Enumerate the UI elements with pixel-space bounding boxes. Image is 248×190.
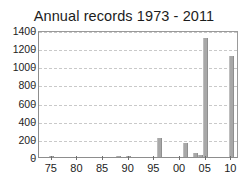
y-tick-label: 400 (2, 117, 36, 127)
x-tick-mark (179, 156, 180, 160)
x-tick-mark (128, 156, 129, 160)
x-tick-label: 90 (114, 162, 142, 174)
x-tick-mark (76, 156, 77, 160)
bar (229, 56, 234, 157)
y-tick-mark (32, 85, 36, 86)
x-tick-label: 85 (88, 162, 116, 174)
y-tick-mark (32, 31, 36, 32)
bar (157, 138, 162, 157)
y-tick-mark (32, 49, 36, 50)
bar-series (39, 32, 237, 157)
chart-title: Annual records 1973 - 2011 (0, 8, 248, 24)
y-tick-label: 200 (2, 135, 36, 145)
x-tick-label: 80 (62, 162, 90, 174)
y-tick-mark (32, 67, 36, 68)
y-tick-label: 600 (2, 99, 36, 109)
x-tick-mark (205, 156, 206, 160)
x-axis: 7580859095000510 (38, 160, 238, 180)
y-tick-label: 1200 (2, 44, 36, 54)
x-tick-label: 10 (216, 162, 244, 174)
x-tick-label: 05 (191, 162, 219, 174)
y-tick-mark (32, 122, 36, 123)
y-tick-label: 0 (2, 153, 36, 163)
chart-page: Annual records 1973 - 2011 0200400600800… (0, 0, 248, 190)
y-tick-label: 800 (2, 80, 36, 90)
x-tick-mark (102, 156, 103, 160)
y-tick-mark (32, 104, 36, 105)
y-tick-label: 1000 (2, 62, 36, 72)
x-tick-label: 00 (165, 162, 193, 174)
y-tick-label: 1400 (2, 26, 36, 36)
bar (203, 38, 208, 157)
plot-area (38, 31, 238, 158)
bar (183, 143, 188, 158)
y-tick-mark (32, 158, 36, 159)
x-tick-label: 95 (139, 162, 167, 174)
x-tick-label: 75 (37, 162, 65, 174)
x-tick-mark (153, 156, 154, 160)
x-tick-mark (51, 156, 52, 160)
x-tick-mark (230, 156, 231, 160)
y-axis: 0200400600800100012001400 (0, 31, 36, 158)
bar (116, 156, 121, 157)
y-tick-mark (32, 140, 36, 141)
